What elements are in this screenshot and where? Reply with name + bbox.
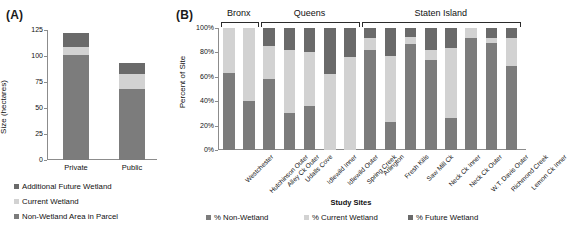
bar-segment bbox=[506, 66, 518, 150]
stacked-bar bbox=[304, 28, 316, 150]
x-axis-label: Private bbox=[53, 163, 99, 172]
bar-segment bbox=[344, 28, 356, 57]
bar-segment bbox=[445, 48, 457, 119]
x-axis-label: Public bbox=[109, 163, 155, 172]
bar-segment bbox=[425, 50, 437, 60]
bar-segment bbox=[445, 28, 457, 48]
panel-b-y-axis bbox=[218, 28, 219, 150]
panel-b-tag: (B) bbox=[176, 8, 193, 22]
y-tick bbox=[215, 52, 218, 53]
legend-item: Additional Future Wetland bbox=[14, 182, 112, 191]
y-tick bbox=[215, 126, 218, 127]
bar-segment bbox=[405, 44, 417, 150]
y-tick bbox=[44, 82, 47, 83]
stacked-bar bbox=[486, 28, 498, 150]
y-tick bbox=[44, 56, 47, 57]
bar-segment bbox=[364, 38, 376, 50]
bar-segment bbox=[324, 28, 336, 74]
legend-swatch bbox=[206, 215, 211, 220]
y-tick bbox=[215, 101, 218, 102]
group-label: Queens bbox=[261, 8, 357, 18]
bar-segment bbox=[119, 74, 145, 90]
panel-a-plot-area: 0255075100125 bbox=[47, 30, 157, 160]
bar-segment bbox=[263, 79, 275, 150]
bar-segment bbox=[506, 28, 518, 38]
stacked-bar bbox=[445, 28, 457, 150]
bar-segment bbox=[324, 74, 336, 150]
legend-item: % Future Wetland bbox=[408, 213, 478, 222]
bar-segment bbox=[284, 28, 296, 50]
stacked-bar bbox=[243, 28, 255, 150]
group-brace bbox=[362, 22, 521, 27]
legend-swatch bbox=[14, 184, 19, 189]
stacked-bar bbox=[223, 28, 235, 150]
y-tick-label: 20% bbox=[186, 122, 214, 129]
stacked-bar bbox=[344, 28, 356, 150]
stacked-bar bbox=[385, 28, 397, 150]
panel-a: (A) Size (hectares) 0255075100125 Privat… bbox=[0, 0, 176, 230]
bar-segment bbox=[385, 56, 397, 122]
y-tick-label: 40% bbox=[186, 97, 214, 104]
bar-segment bbox=[63, 47, 89, 55]
bar-segment bbox=[465, 28, 477, 38]
x-axis-label: Westchester bbox=[243, 153, 274, 184]
y-tick-label: 100% bbox=[186, 24, 214, 31]
group-label: Bronx bbox=[221, 8, 257, 18]
legend-label: % Non-Wetland bbox=[214, 213, 268, 222]
bar-segment bbox=[223, 73, 235, 150]
bar-segment bbox=[385, 122, 397, 150]
y-tick bbox=[44, 160, 47, 161]
group-label: Staten Island bbox=[362, 8, 519, 18]
y-tick-label: 125 bbox=[21, 26, 43, 33]
bar-segment bbox=[486, 43, 498, 150]
bar-segment bbox=[486, 28, 498, 38]
legend-swatch bbox=[304, 215, 309, 220]
bar-segment bbox=[304, 28, 316, 52]
stacked-bar bbox=[465, 28, 477, 150]
bar-segment bbox=[263, 28, 275, 46]
y-tick bbox=[215, 150, 218, 151]
y-tick-label: 50 bbox=[21, 104, 43, 111]
panel-a-y-axis-label: Size (hectares) bbox=[0, 62, 8, 152]
bar-segment bbox=[223, 28, 235, 73]
bar-segment bbox=[425, 60, 437, 150]
legend-label: Current Wetland bbox=[22, 197, 79, 206]
stacked-bar bbox=[263, 28, 275, 150]
group-brace bbox=[221, 22, 259, 27]
legend-label: Non-Wetland Area in Parcel bbox=[22, 212, 118, 221]
stacked-bar bbox=[405, 28, 417, 150]
stacked-bar bbox=[324, 28, 336, 150]
y-tick-label: 60% bbox=[186, 73, 214, 80]
legend-swatch bbox=[14, 199, 19, 204]
legend-item: Current Wetland bbox=[14, 197, 79, 206]
bar-segment bbox=[344, 57, 356, 150]
legend-item: % Current Wetland bbox=[304, 213, 378, 222]
legend-swatch bbox=[14, 214, 19, 219]
stacked-bar bbox=[425, 28, 437, 150]
bar-segment bbox=[284, 50, 296, 113]
bar-segment bbox=[385, 28, 397, 56]
panel-a-tag: (A) bbox=[6, 8, 23, 22]
y-tick-label: 25 bbox=[21, 130, 43, 137]
y-tick bbox=[44, 134, 47, 135]
y-tick bbox=[215, 28, 218, 29]
bar-segment bbox=[119, 63, 145, 73]
bar-segment bbox=[304, 52, 316, 106]
bar-segment bbox=[243, 28, 255, 101]
stacked-bar bbox=[284, 28, 296, 150]
stacked-bar bbox=[119, 63, 145, 160]
panel-b: (B) Percent of Site BronxQueensStaten Is… bbox=[176, 0, 532, 230]
bar-segment bbox=[425, 28, 437, 50]
legend-swatch bbox=[408, 215, 413, 220]
bar-segment bbox=[364, 28, 376, 38]
group-brace bbox=[261, 22, 359, 27]
y-tick-label: 0 bbox=[21, 156, 43, 163]
legend-item: % Non-Wetland bbox=[206, 213, 268, 222]
bar-segment bbox=[263, 46, 275, 79]
y-tick bbox=[44, 108, 47, 109]
y-tick-label: 80% bbox=[186, 48, 214, 55]
legend-label: % Current Wetland bbox=[312, 213, 378, 222]
bar-segment bbox=[405, 37, 417, 44]
legend-label: % Future Wetland bbox=[416, 213, 478, 222]
